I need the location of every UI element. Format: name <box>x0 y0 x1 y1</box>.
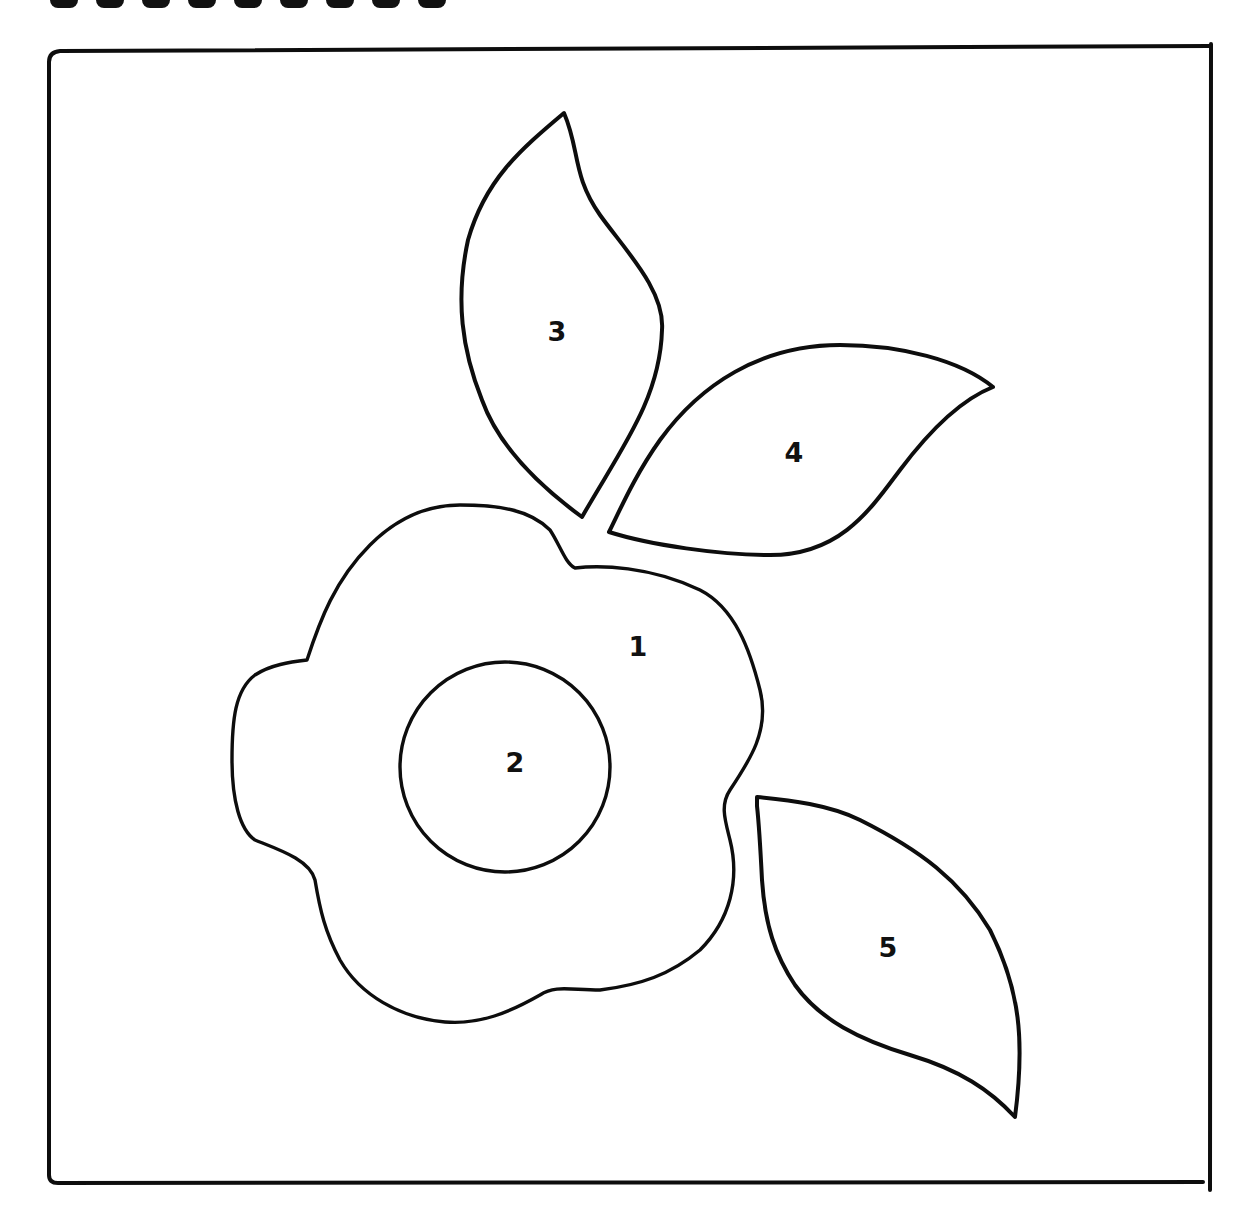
piece-label-4: 4 <box>785 439 804 466</box>
piece-label-3: 3 <box>548 318 567 345</box>
piece-label-5: 5 <box>879 934 898 961</box>
applique-pattern <box>0 0 1257 1222</box>
piece-label-2: 2 <box>506 749 525 776</box>
piece-label-1: 1 <box>629 633 648 660</box>
